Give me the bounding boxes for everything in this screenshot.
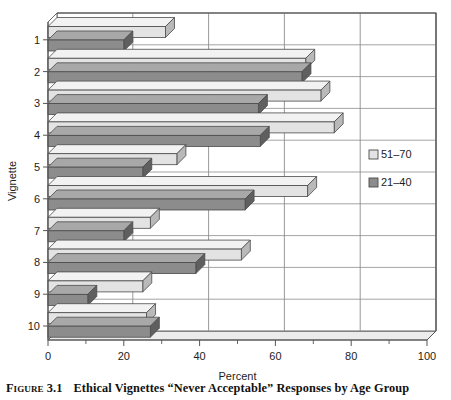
legend-swatch-21-40 [369, 178, 378, 187]
xtick-label-100: 100 [418, 350, 436, 362]
y-axis-title: Vignette [6, 161, 18, 201]
bar-group-vignette-2 [48, 49, 315, 83]
ytick-label-3: 3 [34, 97, 40, 109]
chart-root: 02040608010012345678910PercentVignette51… [6, 13, 436, 382]
ytick-label-6: 6 [34, 193, 40, 205]
bar-21-40-v7-top [48, 222, 133, 231]
caption-title: Ethical Vignettes “Never Acceptable” Res… [73, 381, 409, 395]
ytick-label-2: 2 [34, 66, 40, 78]
bar-21-40-v4 [48, 126, 269, 146]
legend-label-51-70: 51–70 [381, 148, 412, 160]
bar-group-vignette-10 [48, 304, 159, 338]
ytick-label-4: 4 [34, 129, 40, 141]
legend-swatch-51-70 [369, 150, 378, 159]
bar-21-40-v9 [48, 285, 97, 305]
bar-51-70-v2-top [48, 49, 315, 58]
bar-21-40-v7 [48, 222, 133, 242]
xtick-label-60: 60 [269, 350, 281, 362]
bar-21-40-v10-front [48, 326, 150, 337]
bar-21-40-v8 [48, 254, 205, 274]
bar-21-40-v6 [48, 190, 254, 210]
ytick-label-10: 10 [28, 320, 40, 332]
bar-21-40-v5 [48, 158, 152, 178]
ytick-label-7: 7 [34, 225, 40, 237]
bar-21-40-v8-top [48, 254, 205, 263]
xtick-label-20: 20 [118, 350, 130, 362]
caption-figure-label: Figure 3.1 [6, 381, 62, 395]
bar-51-70-v6-top [48, 177, 317, 186]
bar-51-70-v5-top [48, 145, 186, 154]
legend-label-21-40: 21–40 [381, 176, 412, 188]
bar-21-40-v10-top [48, 317, 159, 326]
figure-container: 02040608010012345678910PercentVignette51… [0, 0, 451, 400]
bar-51-70-v8-top [48, 240, 250, 249]
bar-21-40-v4-top [48, 126, 269, 135]
ytick-label-1: 1 [34, 34, 40, 46]
ytick-label-5: 5 [34, 161, 40, 173]
bar-21-40-v10 [48, 317, 159, 337]
ytick-label-9: 9 [34, 288, 40, 300]
bar-21-40-v5-top [48, 158, 152, 167]
bar-chart: 02040608010012345678910PercentVignette51… [0, 0, 451, 400]
bar-51-70-v3-top [48, 81, 330, 90]
bar-21-40-v6-top [48, 190, 254, 199]
bar-21-40-v3-top [48, 95, 267, 104]
bar-21-40-v2 [48, 63, 311, 83]
xtick-label-40: 40 [193, 350, 205, 362]
bar-51-70-v7-top [48, 208, 159, 217]
figure-caption: Figure 3.1Ethical Vignettes “Never Accep… [0, 381, 451, 396]
bar-21-40-v1-top [48, 31, 133, 40]
bar-21-40-v3 [48, 95, 267, 115]
bar-21-40-v1 [48, 31, 133, 51]
bar-51-70-v1-top [48, 18, 174, 27]
bar-51-70-v9-top [48, 272, 152, 281]
ytick-label-8: 8 [34, 256, 40, 268]
bar-51-70-v4-top [48, 113, 343, 122]
xtick-label-0: 0 [45, 350, 51, 362]
xtick-label-80: 80 [345, 350, 357, 362]
bar-51-70-v10-top [48, 304, 156, 313]
bar-21-40-v2-top [48, 63, 311, 72]
